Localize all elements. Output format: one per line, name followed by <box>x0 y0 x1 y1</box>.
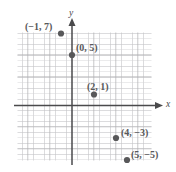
x-axis-label: x <box>166 100 170 109</box>
data-point <box>124 157 130 163</box>
data-point <box>91 91 97 97</box>
data-point <box>69 52 75 58</box>
point-label-4-minus3: (4, −3) <box>121 128 148 138</box>
point-label-minus1-7: (−1, 7) <box>25 22 52 32</box>
coordinate-plane-figure: (−1, 7) (0, 5) (2, 1) (4, −3) (5, −5) y … <box>0 0 176 172</box>
data-point <box>58 30 64 36</box>
data-point <box>113 135 119 141</box>
point-label-5-minus5: (5, −5) <box>131 150 158 160</box>
point-label-0-5: (0, 5) <box>76 43 98 53</box>
point-label-2-1: (2, 1) <box>87 82 109 92</box>
y-axis-label: y <box>69 9 73 18</box>
